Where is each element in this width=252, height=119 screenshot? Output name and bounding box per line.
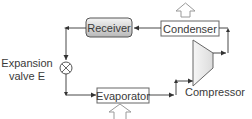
expansion-valve-label-line2: valve E — [9, 70, 45, 82]
evaporator-label: Evaporator — [96, 90, 150, 102]
receiver-label: Receiver — [87, 22, 131, 34]
refrigeration-cycle-diagram: Condenser Receiver Expansion valve E Eva… — [0, 0, 252, 119]
heat-in-arrow-icon — [109, 104, 131, 119]
heat-out-arrow-icon — [176, 3, 195, 17]
condenser-label: Condenser — [163, 23, 217, 35]
arrowhead-icon — [226, 28, 230, 32]
receiver-box: Receiver — [86, 18, 132, 37]
expansion-valve-icon — [60, 62, 72, 74]
compressor-label: Compressor — [185, 86, 245, 98]
evaporator-box: Evaporator — [96, 88, 150, 103]
flow-line-receiver-to-valve — [66, 28, 86, 60]
arrowhead-icon — [64, 26, 69, 30]
condenser-box: Condenser — [161, 21, 219, 36]
expansion-valve-label-line1: Expansion — [1, 57, 52, 69]
compressor-icon — [193, 40, 213, 86]
